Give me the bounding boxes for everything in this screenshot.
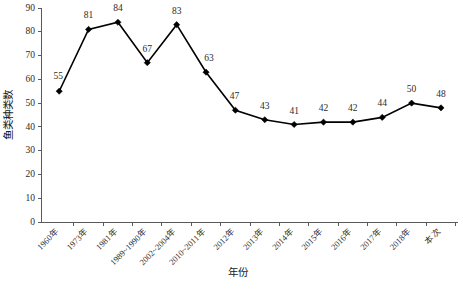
x-tick-label: 1973年 bbox=[65, 226, 90, 251]
data-point-label: 43 bbox=[260, 101, 270, 111]
data-point-marker bbox=[438, 105, 444, 111]
fish-species-line-chart: 0102030405060708090 1960年1973年1981年1989~… bbox=[0, 0, 463, 291]
y-tick-label: 10 bbox=[26, 193, 36, 203]
series-polyline bbox=[59, 22, 441, 124]
data-point-marker bbox=[379, 114, 385, 120]
data-point-marker bbox=[350, 119, 356, 125]
y-tick-label: 0 bbox=[30, 217, 35, 227]
data-point-marker bbox=[262, 117, 268, 123]
data-point-marker bbox=[56, 88, 62, 94]
y-axis: 0102030405060708090 bbox=[26, 3, 42, 227]
data-point-marker bbox=[291, 121, 297, 127]
data-point-marker bbox=[409, 100, 415, 106]
data-point-label: 44 bbox=[377, 98, 387, 108]
y-tick-label: 40 bbox=[26, 122, 36, 132]
y-tick-label: 30 bbox=[26, 145, 36, 155]
data-point-label: 41 bbox=[289, 106, 299, 116]
data-point-label: 84 bbox=[113, 3, 123, 13]
data-point-marker bbox=[85, 26, 91, 32]
y-axis-title: 鱼类种类数 bbox=[2, 89, 14, 140]
data-point-labels: 5581846783634743414242445048 bbox=[53, 3, 446, 115]
x-tick-label: 2017年 bbox=[358, 226, 383, 251]
y-tick-label: 20 bbox=[26, 169, 36, 179]
x-tick-label: 2013年 bbox=[241, 226, 266, 251]
x-tick-label: 2015年 bbox=[299, 226, 324, 251]
x-tick-label: 1960年 bbox=[35, 226, 60, 251]
data-point-label: 67 bbox=[143, 44, 153, 54]
data-point-label: 63 bbox=[204, 53, 214, 63]
y-tick-label: 90 bbox=[26, 3, 36, 13]
x-tick-label: 1981年 bbox=[94, 226, 119, 251]
data-point-label: 47 bbox=[230, 91, 240, 101]
data-series bbox=[56, 19, 444, 127]
data-point-label: 48 bbox=[436, 89, 446, 99]
y-tick-label: 60 bbox=[26, 74, 36, 84]
data-point-label: 55 bbox=[53, 71, 63, 81]
x-tick-label: 2018年 bbox=[388, 226, 413, 251]
data-point-label: 42 bbox=[348, 103, 358, 113]
data-point-marker bbox=[320, 119, 326, 125]
chart-canvas: 0102030405060708090 1960年1973年1981年1989~… bbox=[0, 0, 463, 291]
data-point-label: 81 bbox=[84, 10, 94, 20]
data-point-label: 50 bbox=[407, 84, 417, 94]
data-point-label: 83 bbox=[172, 6, 182, 16]
y-tick-label: 80 bbox=[26, 26, 36, 36]
x-tick-label: 2014年 bbox=[270, 226, 295, 251]
x-axis: 1960年1973年1981年1989~1990年2002~2004年2010~… bbox=[35, 222, 458, 267]
y-tick-label: 70 bbox=[26, 50, 36, 60]
x-axis-title: 年份 bbox=[228, 266, 249, 278]
y-tick-label: 50 bbox=[26, 98, 36, 108]
x-tick-label: 2016年 bbox=[329, 226, 354, 251]
x-tick-label: 本次 bbox=[423, 226, 443, 246]
x-tick-label: 2012年 bbox=[211, 226, 236, 251]
data-point-label: 42 bbox=[319, 103, 329, 113]
